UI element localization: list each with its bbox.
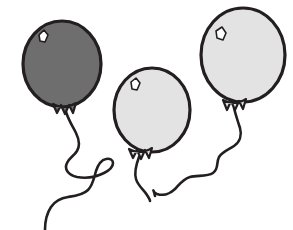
balloons-illustration: [0, 0, 293, 230]
balloon-body-middle: [114, 68, 190, 152]
balloon-body-left: [23, 21, 101, 107]
balloon-body-right: [201, 8, 285, 102]
balloons-canvas: [0, 0, 293, 230]
